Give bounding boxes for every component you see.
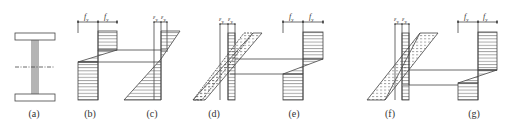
fy-label: fy [289, 12, 294, 22]
fy-label: fy [84, 12, 89, 22]
epsilon-y-label: εy [153, 14, 158, 22]
fy-label: fy [483, 12, 488, 22]
stress-diagram-e [283, 20, 323, 100]
strain-diagram-f [367, 24, 438, 100]
epsilon-y-label: εy [402, 16, 407, 24]
panel-label-c: (c) [146, 108, 157, 120]
diagram-svg: fy fy εy εy εy εy fy fy εy εy fy fy (a) … [0, 0, 511, 129]
panel-label-d: (d) [208, 108, 220, 120]
panel-label-f: (f) [385, 108, 395, 120]
stress-diagram-b [78, 20, 117, 100]
strain-diagram-c [124, 22, 180, 100]
panel-label-a: (a) [28, 108, 39, 120]
panel-label-b: (b) [84, 108, 96, 120]
i-beam-section [15, 33, 55, 101]
figure-canvas: fy fy εy εy εy εy fy fy εy εy fy fy (a) … [0, 0, 511, 129]
fy-label: fy [464, 12, 469, 22]
panel-label-g: (g) [468, 108, 480, 120]
epsilon-y-label: εy [161, 14, 166, 22]
epsilon-y-label: εy [228, 16, 233, 24]
epsilon-y-label: εy [394, 16, 399, 24]
epsilon-y-label: εy [219, 16, 224, 24]
strain-diagram-d [193, 24, 262, 100]
stress-diagram-g [458, 20, 497, 100]
panel-label-e: (e) [288, 108, 299, 120]
fy-label: fy [309, 12, 314, 22]
fy-label: fy [104, 12, 109, 22]
